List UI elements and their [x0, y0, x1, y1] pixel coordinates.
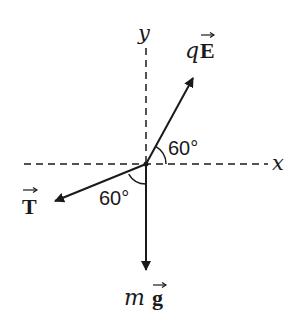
angle-label-tension: 60° [99, 187, 129, 209]
origin-point [144, 162, 149, 167]
y-axis-label: y [137, 21, 151, 45]
x-axis-label: x [272, 151, 284, 175]
angle-arc-tension [129, 174, 146, 184]
angle-label-electric: 60° [168, 137, 198, 159]
svg-text:m: m [124, 285, 145, 310]
gravity-label: m g [124, 283, 166, 311]
tension-label: T [22, 188, 37, 220]
free-body-diagram: x y 60° 60° q E T m g [0, 0, 304, 331]
electric-force-label: q E [185, 33, 215, 64]
svg-text:q: q [185, 38, 199, 63]
svg-text:E: E [200, 38, 215, 63]
svg-text:T: T [22, 194, 37, 219]
svg-text:g: g [152, 285, 163, 310]
angle-arc-electric [156, 147, 166, 164]
